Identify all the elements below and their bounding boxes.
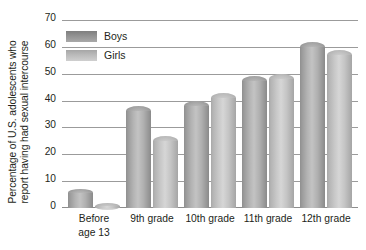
legend-item-girls: Girls (66, 48, 146, 63)
y-tick-label-40: 40 (32, 94, 56, 104)
x-label-10th-grade: 10th grade (177, 212, 243, 226)
bar-body (68, 193, 93, 208)
bar-boys-before-age-13 (68, 189, 93, 208)
legend-item-boys: Boys (66, 29, 146, 44)
bar-girls-12th-grade (327, 50, 352, 209)
legend: Boys Girls (66, 29, 146, 67)
bar-body (184, 106, 209, 208)
legend-swatch-boys-icon (66, 31, 97, 42)
x-label-12th-grade: 12th grade (293, 212, 359, 226)
bar-girls-before-age-13 (95, 203, 120, 208)
bar-chart: Percentage of U.S. adolescents who repor… (0, 0, 366, 250)
bar-body (153, 141, 178, 209)
bar-body (95, 206, 120, 208)
bar-girls-11th-grade (269, 74, 294, 208)
bar-girls-9th-grade (153, 136, 178, 209)
bar-boys-9th-grade (126, 106, 151, 208)
x-label-before-age-13: Before age 13 (62, 212, 126, 239)
bar-body (269, 79, 294, 208)
y-tick-label-10: 10 (32, 174, 56, 184)
bar-girls-10th-grade (211, 93, 236, 209)
y-axis-title-line-1: Percentage of U.S. adolescents who (7, 40, 20, 203)
bar-boys-11th-grade (242, 76, 267, 208)
bar-body (242, 81, 267, 208)
x-label-line-2: age 13 (62, 226, 126, 240)
y-tick-label-30: 30 (32, 120, 56, 130)
bar-body (327, 55, 352, 209)
y-tick-label-20: 20 (32, 147, 56, 157)
bar-body (126, 111, 151, 208)
y-axis-title-line-2: report having had sexual intercourse (19, 41, 32, 204)
y-tick-label-0: 0 (32, 201, 56, 211)
y-axis-title: Percentage of U.S. adolescents who repor… (4, 17, 34, 227)
x-label-line-1: Before (62, 212, 126, 226)
bar-boys-12th-grade (300, 42, 325, 209)
legend-label-girls: Girls (104, 50, 126, 61)
x-label-9th-grade: 9th grade (120, 212, 184, 226)
legend-label-boys: Boys (104, 31, 127, 42)
y-tick-label-60: 60 (32, 40, 56, 50)
x-label-11th-grade: 11th grade (235, 212, 301, 226)
bar-body (211, 98, 236, 209)
x-axis-labels: Before age 13 9th grade 10th grade 11th … (62, 212, 358, 248)
y-tick-label-70: 70 (32, 13, 56, 23)
legend-swatch-girls-icon (66, 50, 97, 61)
y-tick-label-50: 50 (32, 67, 56, 77)
bar-body (300, 47, 325, 209)
bar-boys-10th-grade (184, 101, 209, 208)
